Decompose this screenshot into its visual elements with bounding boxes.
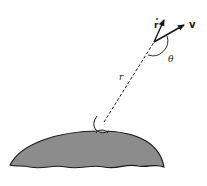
r-dot-label: r <box>154 20 159 30</box>
diagram-canvas: r r v θ <box>0 0 207 186</box>
radius-dashed-line <box>104 42 154 122</box>
r-dot-dot <box>156 18 158 20</box>
radius-label: r <box>119 72 124 82</box>
planet-body <box>10 131 164 168</box>
theta-label: θ <box>168 54 174 64</box>
velocity-label: v <box>189 19 196 30</box>
